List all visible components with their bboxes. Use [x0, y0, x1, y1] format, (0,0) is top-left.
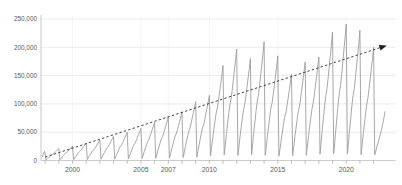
y-axis-labels: 050,000100,000150,000200,000250,000 — [14, 15, 38, 164]
y-axis-label: 200,000 — [14, 44, 38, 51]
x-axis-label: 2015 — [270, 166, 285, 173]
y-axis-label: 100,000 — [14, 100, 38, 107]
y-axis-label: 50,000 — [17, 128, 37, 135]
x-axis-label: 2000 — [65, 166, 80, 173]
x-axis-label: 2010 — [202, 166, 217, 173]
y-axis-label: 0 — [33, 157, 37, 164]
x-axis-label: 2005 — [133, 166, 148, 173]
horizontal-gridlines — [41, 19, 396, 161]
x-axis-label: 2020 — [339, 166, 354, 173]
arrowhead-shape — [379, 43, 388, 51]
cumulative-annual-line-chart: 050,000100,000150,000200,000250,00020002… — [0, 0, 402, 185]
trend-arrowhead-icon — [379, 43, 388, 51]
x-axis-labels: 200020052007201020152020 — [65, 166, 354, 173]
x-axis-label: 2007 — [161, 166, 176, 173]
data-series-path — [42, 24, 385, 160]
y-axis-label: 250,000 — [14, 15, 38, 22]
chart-container: 050,000100,000150,000200,000250,00020002… — [0, 0, 402, 185]
x-axis-ticks — [45, 161, 373, 164]
trend-line — [45, 47, 381, 157]
y-axis-label: 150,000 — [14, 72, 38, 79]
